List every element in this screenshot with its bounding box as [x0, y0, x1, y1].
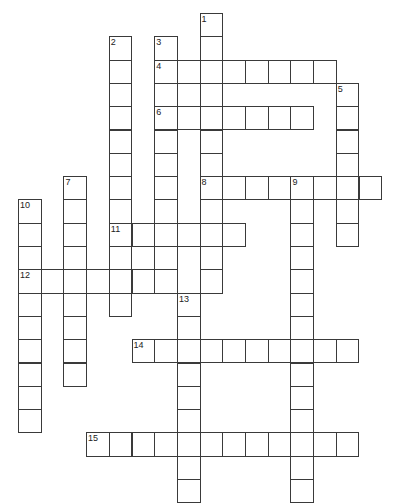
crossword-cell[interactable] [200, 106, 224, 130]
crossword-cell[interactable] [154, 199, 178, 223]
crossword-cell[interactable] [200, 339, 224, 363]
crossword-cell[interactable] [63, 223, 87, 247]
crossword-cell[interactable] [132, 269, 156, 293]
crossword-cell[interactable] [200, 83, 224, 107]
cell-letter-input[interactable] [155, 61, 177, 83]
crossword-cell[interactable] [336, 339, 360, 363]
crossword-cell[interactable] [109, 153, 133, 177]
cell-letter-input[interactable] [291, 410, 313, 432]
cell-letter-input[interactable] [360, 177, 382, 199]
crossword-cell[interactable] [177, 363, 201, 387]
cell-letter-input[interactable] [314, 177, 336, 199]
cell-letter-input[interactable] [155, 224, 177, 246]
crossword-cell[interactable]: 7 [63, 176, 87, 200]
crossword-cell[interactable] [200, 432, 224, 456]
crossword-cell[interactable] [200, 153, 224, 177]
cell-letter-input[interactable] [64, 317, 86, 339]
cell-letter-input[interactable] [19, 224, 41, 246]
cell-letter-input[interactable] [223, 177, 245, 199]
cell-letter-input[interactable] [110, 61, 132, 83]
crossword-cell[interactable] [313, 60, 337, 84]
cell-letter-input[interactable] [178, 107, 200, 129]
cell-letter-input[interactable] [269, 107, 291, 129]
cell-letter-input[interactable] [291, 317, 313, 339]
crossword-cell[interactable] [154, 339, 178, 363]
cell-letter-input[interactable] [110, 270, 132, 292]
cell-letter-input[interactable] [19, 294, 41, 316]
crossword-cell[interactable] [177, 60, 201, 84]
crossword-cell[interactable] [222, 432, 246, 456]
crossword-cell[interactable] [18, 386, 42, 410]
cell-letter-input[interactable] [19, 364, 41, 386]
crossword-cell[interactable] [109, 293, 133, 317]
cell-letter-input[interactable] [201, 270, 223, 292]
crossword-cell[interactable] [336, 223, 360, 247]
crossword-cell[interactable] [177, 106, 201, 130]
crossword-cell[interactable] [245, 432, 269, 456]
crossword-cell[interactable] [109, 106, 133, 130]
cell-letter-input[interactable] [155, 131, 177, 153]
crossword-cell[interactable] [63, 293, 87, 317]
cell-letter-input[interactable] [337, 340, 359, 362]
cell-letter-input[interactable] [178, 433, 200, 455]
cell-letter-input[interactable] [291, 433, 313, 455]
crossword-cell[interactable] [268, 60, 292, 84]
cell-letter-input[interactable] [291, 340, 313, 362]
crossword-cell[interactable] [290, 269, 314, 293]
cell-letter-input[interactable] [155, 177, 177, 199]
crossword-cell[interactable]: 3 [154, 36, 178, 60]
crossword-cell[interactable] [268, 106, 292, 130]
cell-letter-input[interactable] [64, 224, 86, 246]
cell-letter-input[interactable] [201, 433, 223, 455]
cell-letter-input[interactable] [87, 270, 109, 292]
crossword-cell[interactable] [177, 339, 201, 363]
crossword-cell[interactable] [63, 316, 87, 340]
crossword-cell[interactable] [200, 130, 224, 154]
cell-letter-input[interactable] [291, 364, 313, 386]
cell-letter-input[interactable] [155, 200, 177, 222]
crossword-cell[interactable] [336, 199, 360, 223]
cell-letter-input[interactable] [291, 294, 313, 316]
crossword-cell[interactable] [86, 269, 110, 293]
crossword-cell[interactable] [132, 432, 156, 456]
crossword-cell[interactable] [290, 60, 314, 84]
cell-letter-input[interactable] [337, 200, 359, 222]
cell-letter-input[interactable] [223, 224, 245, 246]
cell-letter-input[interactable] [110, 131, 132, 153]
crossword-cell[interactable] [18, 293, 42, 317]
cell-letter-input[interactable] [201, 84, 223, 106]
crossword-cell[interactable] [154, 223, 178, 247]
cell-letter-input[interactable] [19, 387, 41, 409]
crossword-cell[interactable] [290, 432, 314, 456]
crossword-cell[interactable] [109, 432, 133, 456]
crossword-cell[interactable] [177, 386, 201, 410]
cell-letter-input[interactable] [201, 177, 223, 199]
cell-letter-input[interactable] [269, 433, 291, 455]
crossword-cell[interactable] [18, 409, 42, 433]
crossword-cell[interactable] [222, 339, 246, 363]
cell-letter-input[interactable] [291, 200, 313, 222]
cell-letter-input[interactable] [337, 224, 359, 246]
cell-letter-input[interactable] [64, 247, 86, 269]
crossword-cell[interactable] [18, 223, 42, 247]
cell-letter-input[interactable] [133, 340, 155, 362]
crossword-cell[interactable] [290, 223, 314, 247]
cell-letter-input[interactable] [178, 387, 200, 409]
cell-letter-input[interactable] [223, 433, 245, 455]
crossword-cell[interactable] [313, 176, 337, 200]
crossword-cell[interactable] [154, 83, 178, 107]
cell-letter-input[interactable] [178, 61, 200, 83]
cell-letter-input[interactable] [291, 61, 313, 83]
cell-letter-input[interactable] [155, 154, 177, 176]
crossword-cell[interactable]: 9 [290, 176, 314, 200]
crossword-cell[interactable] [18, 363, 42, 387]
cell-letter-input[interactable] [42, 270, 64, 292]
crossword-cell[interactable]: 13 [177, 293, 201, 317]
cell-letter-input[interactable] [19, 340, 41, 362]
crossword-cell[interactable] [290, 409, 314, 433]
cell-letter-input[interactable] [246, 107, 268, 129]
cell-letter-input[interactable] [291, 107, 313, 129]
crossword-cell[interactable]: 11 [109, 223, 133, 247]
crossword-cell[interactable] [245, 106, 269, 130]
cell-letter-input[interactable] [155, 340, 177, 362]
